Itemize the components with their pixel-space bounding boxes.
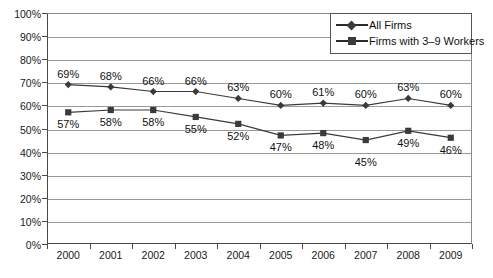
y-axis-label: 20% (0, 194, 41, 205)
data-point-label: 48% (293, 140, 353, 151)
x-axis-tick (260, 244, 261, 249)
legend-item-firms-with-3-9-workers[interactable]: Firms with 3–9 Workers (335, 33, 467, 49)
x-axis-tick (430, 244, 431, 249)
y-axis-tick (42, 198, 47, 199)
y-axis-label: 40% (0, 148, 41, 159)
data-point-label: 45% (336, 157, 396, 168)
gridline (48, 222, 471, 223)
diamond-marker-icon (335, 18, 369, 32)
gridline (48, 176, 471, 177)
y-axis-label: 0% (0, 240, 41, 251)
data-point-label: 46% (421, 145, 481, 156)
y-axis-label: 90% (0, 32, 41, 43)
y-axis-label: 30% (0, 171, 41, 182)
chart-screenshot: 0%10%20%30%40%50%60%70%80%90%100%2000200… (0, 0, 493, 278)
legend-label: Firms with 3–9 Workers (369, 36, 484, 47)
x-axis-tick (175, 244, 176, 249)
chart-legend: All Firms Firms with 3–9 Workers (330, 13, 472, 54)
x-axis-label: 2009 (421, 250, 481, 261)
gridline (48, 60, 471, 61)
y-axis-tick (42, 152, 47, 153)
y-axis-tick (42, 36, 47, 37)
legend-label: All Firms (369, 20, 412, 31)
square-marker-icon (335, 34, 369, 48)
x-axis-tick (472, 244, 473, 249)
y-axis-tick (42, 59, 47, 60)
y-axis-label: 10% (0, 217, 41, 228)
gridline (48, 199, 471, 200)
y-axis-tick (42, 105, 47, 106)
x-axis-tick (387, 244, 388, 249)
y-axis-label: 70% (0, 78, 41, 89)
y-axis-tick (42, 175, 47, 176)
y-axis-tick (42, 221, 47, 222)
x-axis-tick (302, 244, 303, 249)
x-axis-tick (217, 244, 218, 249)
legend-item-all-firms[interactable]: All Firms (335, 17, 467, 33)
y-axis-label: 80% (0, 55, 41, 66)
data-point-label: 60% (421, 89, 481, 100)
x-axis-tick (132, 244, 133, 249)
y-axis-label: 60% (0, 101, 41, 112)
y-axis-label: 100% (0, 9, 41, 20)
x-axis-tick (345, 244, 346, 249)
gridline (48, 106, 471, 107)
y-axis-tick (42, 13, 47, 14)
x-axis-tick (90, 244, 91, 249)
data-point-label: 52% (208, 131, 268, 142)
y-axis-label: 50% (0, 125, 41, 136)
y-axis-tick (42, 82, 47, 83)
x-axis-tick (47, 244, 48, 249)
